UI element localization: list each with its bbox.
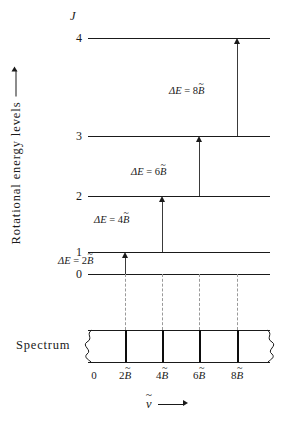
transition-arrow-head-8b — [234, 38, 240, 44]
transition-label-2b-symbol-group: ~B — [87, 255, 93, 266]
transition-arrow-head-2b — [122, 252, 128, 258]
transition-label-8b-eq: = — [184, 85, 190, 96]
tilde-accent-icon: ~ — [237, 363, 242, 373]
transition-label-6b-delta: ΔE — [131, 166, 144, 177]
drop-line-8b — [237, 274, 238, 330]
spectrum-box-top-edge — [88, 330, 270, 331]
energy-level-line-j4 — [88, 38, 270, 39]
transition-label-8b-delta: ΔE — [169, 85, 182, 96]
energy-level-line-j1 — [88, 252, 270, 253]
tick-label-8b-symbol-group: ~B — [236, 369, 243, 381]
tick-label-2b: 2~B — [119, 369, 131, 381]
spectral-line-4b — [162, 330, 164, 362]
tick-label-0-coeff: 0 — [91, 369, 97, 381]
x-axis-label: ~v — [146, 397, 188, 412]
x-axis-arrow-shaft-icon — [158, 404, 184, 405]
quantum-number-header: J — [70, 9, 76, 24]
spectral-line-6b — [199, 330, 201, 362]
y-axis-label: Rotational energy levels — [9, 27, 24, 285]
transition-label-8b: ΔE = 8~B — [169, 85, 204, 96]
transition-arrow-shaft-8b — [237, 44, 238, 136]
drop-line-6b — [199, 274, 200, 330]
energy-level-line-j3 — [88, 136, 270, 137]
y-axis-label-container: Rotational energy levels — [0, 0, 30, 320]
transition-arrow-head-4b — [159, 196, 165, 202]
x-axis-arrow-head-icon — [183, 400, 188, 406]
y-axis-arrow-head-icon — [12, 67, 18, 72]
spectrum-right-break-icon — [264, 329, 277, 364]
transition-label-6b-eq: = — [146, 166, 152, 177]
tilde-accent-icon: ~ — [161, 160, 166, 170]
spectral-line-8b — [237, 330, 239, 362]
energy-level-line-j2 — [88, 196, 270, 197]
y-axis-arrow-shaft-icon — [15, 71, 16, 97]
rotational-energy-level-diagram: Rotational energy levels J 4 3 2 1 0 ΔE … — [0, 0, 286, 422]
x-axis-symbol-group: ~v — [146, 397, 152, 412]
tilde-accent-icon: ~ — [199, 79, 204, 89]
tick-label-0: 0 — [91, 369, 97, 381]
tilde-accent-icon: ~ — [199, 363, 204, 373]
transition-arrow-head-6b — [196, 136, 202, 142]
tick-label-4b-symbol-group: ~B — [161, 369, 168, 381]
transition-label-2b-eq: = — [73, 255, 79, 266]
spectral-line-2b — [125, 330, 127, 362]
transition-label-6b-symbol-group: ~B — [160, 166, 166, 177]
energy-level-label-j4: 4 — [66, 31, 82, 46]
tick-label-6b: 6~B — [193, 369, 205, 381]
spectrum-label: Spectrum — [16, 338, 70, 353]
energy-level-line-j0 — [88, 274, 270, 275]
transition-label-2b: ΔE = 2~B — [58, 255, 93, 266]
tick-label-8b: 8~B — [231, 369, 243, 381]
tick-label-6b-symbol-group: ~B — [198, 369, 205, 381]
spectrum-left-break-icon — [82, 329, 95, 364]
drop-line-2b — [125, 274, 126, 330]
energy-level-label-j3: 3 — [66, 129, 82, 144]
transition-arrow-shaft-2b — [125, 258, 126, 274]
tilde-accent-icon: ~ — [162, 363, 167, 373]
tilde-accent-icon: ~ — [146, 390, 152, 402]
transition-label-4b: ΔE = 4~B — [94, 214, 129, 225]
y-axis-label-text: Rotational energy levels — [9, 102, 23, 245]
tilde-accent-icon: ~ — [125, 363, 130, 373]
spectrum-box-bottom-edge — [88, 362, 270, 363]
transition-label-6b: ΔE = 6~B — [131, 166, 166, 177]
transition-label-8b-symbol-group: ~B — [198, 85, 204, 96]
tick-label-2b-symbol-group: ~B — [124, 369, 131, 381]
transition-label-4b-delta: ΔE — [94, 214, 107, 225]
tilde-accent-icon: ~ — [88, 249, 93, 259]
transition-label-4b-eq: = — [109, 214, 115, 225]
energy-level-label-j0: 0 — [66, 267, 82, 282]
transition-arrow-shaft-6b — [199, 142, 200, 196]
energy-level-label-j2: 2 — [66, 189, 82, 204]
drop-line-4b — [162, 274, 163, 330]
transition-arrow-shaft-4b — [162, 202, 163, 252]
tilde-accent-icon: ~ — [124, 208, 129, 218]
transition-label-2b-delta: ΔE — [58, 255, 71, 266]
tick-label-4b: 4~B — [156, 369, 168, 381]
transition-label-4b-symbol-group: ~B — [123, 214, 129, 225]
